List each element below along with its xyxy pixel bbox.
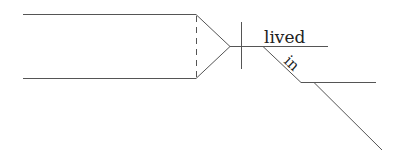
- modifier-slant-line: [314, 83, 382, 151]
- sentence-diagram: lived in: [0, 0, 395, 157]
- fork-upper-line: [196, 15, 230, 47]
- verb-label: lived: [264, 27, 306, 47]
- preposition-label: in: [280, 52, 303, 75]
- fork-lower-line: [196, 47, 230, 79]
